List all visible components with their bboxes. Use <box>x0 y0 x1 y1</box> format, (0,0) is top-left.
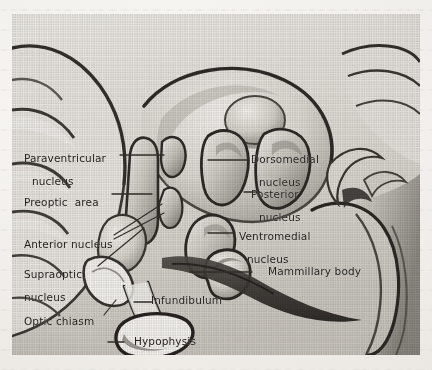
label-anterior-nucleus-line1: Anterior nucleus <box>24 238 113 250</box>
label-mammillary-body: Mammillary body <box>254 254 361 289</box>
label-supraoptic-nucleus-line2: nucleus <box>10 292 82 304</box>
label-dorsomedial-nucleus-line1: Dorsomedial <box>251 153 319 165</box>
label-hypophysis-line1: Hypophysis <box>134 335 196 347</box>
label-paraventricular-nucleus-line1: Paraventricular <box>24 152 106 164</box>
label-optic-chiasm: Optic chiasm <box>10 304 94 339</box>
label-mammillary-body-line1: Mammillary body <box>268 265 361 277</box>
label-infundibulum: Infundibulum <box>137 283 222 318</box>
label-ventromedial-nucleus-line1: Ventromedial <box>239 230 311 242</box>
label-hypophysis: Hypophysis <box>120 324 196 359</box>
label-posterior-nucleus-line1: Posterior <box>251 188 299 200</box>
label-supraoptic-nucleus-line1: Supraoptic <box>24 268 82 280</box>
label-preoptic-area-line1: Preoptic area <box>24 196 99 208</box>
label-preoptic-area: Preoptic area <box>10 185 99 220</box>
label-infundibulum-line1: Infundibulum <box>151 294 222 306</box>
figure-canvas: Paraventricular nucleus Preoptic area An… <box>0 0 432 370</box>
label-optic-chiasm-line1: Optic chiasm <box>24 315 94 327</box>
